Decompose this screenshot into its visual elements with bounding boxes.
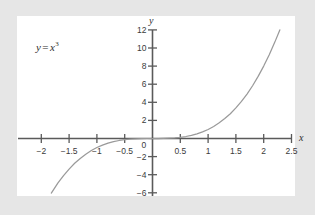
x-tick-label: 0.5 [174, 147, 186, 156]
y-tick-label: −2 [135, 152, 147, 161]
x-tick-label: −2 [36, 147, 46, 156]
x-tick-label: 2.5 [286, 147, 298, 156]
y-tick-label: 4 [135, 98, 147, 107]
y-tick-label: −4 [135, 170, 147, 179]
x-tick-label: 2 [261, 147, 266, 156]
y-tick-label: −6 [135, 189, 147, 198]
y-axis-label: y [149, 16, 153, 26]
origin-label: 0 [142, 141, 147, 150]
cubic-curve [51, 30, 280, 193]
x-tick-label: −1 [92, 147, 102, 156]
plot-graphics [0, 0, 315, 215]
equation-exponent: 3 [55, 40, 59, 48]
x-tick-label: −0.5 [116, 147, 133, 156]
x-axis-label: x [299, 133, 303, 143]
y-tick-label: 10 [135, 44, 147, 53]
y-tick-label: 8 [135, 62, 147, 71]
equation-annotation: y=x3 [36, 40, 59, 53]
axes-group [18, 30, 292, 196]
y-tick-label: 12 [135, 26, 147, 35]
equation-operator: = [41, 41, 50, 53]
x-tick-label: 1.5 [230, 147, 242, 156]
figure-container: −2−1.5−1−0.50.511.522.5−6−4−2246810120 x… [0, 0, 315, 215]
x-tick-label: −1.5 [61, 147, 78, 156]
x-tick-label: 1 [206, 147, 211, 156]
y-tick-label: 6 [135, 80, 147, 89]
y-tick-label: 2 [135, 116, 147, 125]
